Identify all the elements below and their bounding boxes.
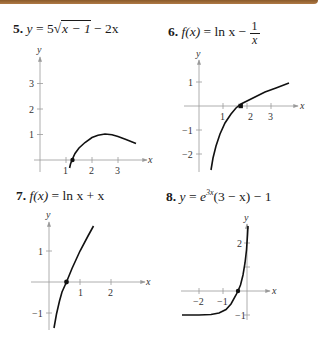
graph-8: −2 −1 2 −1 x y [181, 212, 277, 321]
y-tick-label: 2 [237, 238, 242, 249]
y-tick-label: 3 [29, 78, 34, 89]
graphs-canvas: 1 2 3 1 2 3 x y 1 2 3 1 −1 −2 x y [0, 0, 326, 348]
graph-5: 1 2 3 1 2 3 x y [29, 44, 153, 176]
y-tick-label: −1 [182, 125, 193, 136]
function-curve [54, 226, 94, 328]
x-axis-label: x [145, 276, 151, 287]
y-tick-label: −1 [32, 308, 43, 319]
x-tick-label: 2 [108, 287, 113, 298]
zero-point [70, 158, 74, 162]
y-tick-label: 2 [29, 104, 34, 115]
y-tick-label: 1 [38, 246, 43, 257]
x-axis-label: x [299, 100, 305, 111]
y-tick-label: 1 [29, 129, 34, 140]
x-tick-label: −2 [193, 296, 204, 307]
x-axis-label: x [147, 154, 153, 165]
y-axis-label: y [36, 44, 42, 55]
graph-7: 1 2 1 −1 x y [31, 209, 151, 330]
zero-point [64, 280, 69, 285]
y-tick-label: −2 [182, 149, 193, 160]
function-curve [211, 83, 289, 170]
y-axis-label: y [195, 48, 201, 59]
x-tick-label: 2 [89, 165, 94, 176]
y-axis-label: y [243, 212, 249, 223]
x-tick-label: 1 [63, 165, 68, 176]
x-tick-label: 3 [115, 165, 120, 176]
x-tick-label: −1 [217, 296, 228, 307]
zero-point [239, 104, 243, 108]
x-tick-label: 2 [248, 111, 253, 122]
function-curve [70, 134, 136, 168]
y-tick-label: −1 [235, 310, 246, 321]
ticks [196, 82, 271, 154]
zero-point [236, 289, 240, 293]
graph-6: 1 2 3 1 −1 −2 x y [182, 48, 305, 172]
y-tick-label: 1 [188, 77, 193, 88]
x-tick-label: 1 [78, 287, 83, 298]
x-axis-label: x [271, 285, 277, 296]
x-tick-label: 3 [268, 111, 273, 122]
x-tick-label: 1 [220, 111, 225, 122]
y-axis-label: y [45, 209, 51, 220]
